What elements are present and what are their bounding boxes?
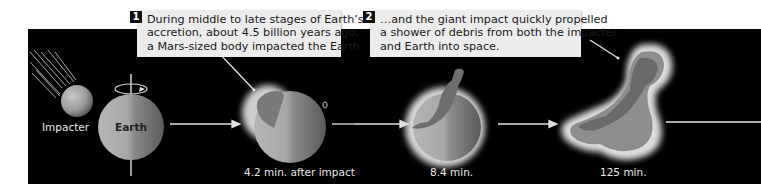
step-number-badge: 2 [363, 11, 375, 23]
caption-box-2: 2 …and the giant impact quickly propelle… [370, 10, 581, 57]
stage-time-label: 125 min. [600, 166, 647, 178]
step-number-badge: 1 [130, 11, 142, 23]
impacter-sphere [61, 85, 93, 117]
caption-2-leader [590, 40, 618, 58]
stage-8-4-min-illustration [405, 68, 485, 167]
caption-box-1: 1 During middle to late stages of Earth’… [137, 10, 341, 57]
stage-time-label: 4.2 min. after impact [244, 166, 355, 178]
caption-line: …and the giant impact quickly propelled [380, 13, 573, 26]
caption-line: and Earth into space. [380, 40, 573, 53]
caption-line: a Mars-sized body impacted the Earth… [147, 40, 333, 53]
stage-4-2-min-illustration [242, 85, 327, 163]
stage-time-label: 8.4 min. [430, 166, 473, 178]
impacter-label: Impacter [42, 121, 89, 133]
stage-125-min-illustration [561, 44, 672, 160]
caption-line: a shower of debris from both the impacte… [380, 26, 573, 39]
earth-label: Earth [115, 121, 147, 133]
caption-1-leader [218, 52, 254, 90]
caption-line: During middle to late stages of Earth’s [147, 13, 333, 26]
caption-line: accretion, about 4.5 billion years ago, [147, 26, 333, 39]
